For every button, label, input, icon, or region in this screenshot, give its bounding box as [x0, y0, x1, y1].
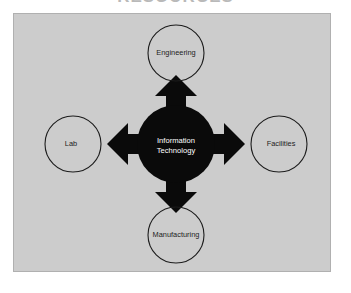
engineering-label: Engineering	[156, 48, 195, 57]
hub-and-spoke-diagram: Engineering Lab Facilities Manufacturing…	[14, 14, 331, 272]
node-manufacturing[interactable]: Manufacturing	[148, 207, 204, 263]
node-engineering[interactable]: Engineering	[148, 25, 204, 81]
page-title-sliver: RESOURCES	[0, 0, 351, 12]
lab-label: Lab	[65, 139, 77, 148]
node-information-technology-hub[interactable]: Information Technology	[137, 105, 215, 183]
page-title-text: RESOURCES	[0, 0, 351, 7]
manufacturing-label: Manufacturing	[153, 230, 200, 239]
hub-label-line-1: Information	[157, 136, 195, 145]
node-lab[interactable]: Lab	[45, 116, 101, 172]
diagram-panel: Engineering Lab Facilities Manufacturing…	[13, 13, 331, 272]
facilities-label: Facilities	[267, 139, 296, 148]
hub-label-line-2: Technology	[157, 146, 196, 155]
node-facilities[interactable]: Facilities	[251, 116, 307, 172]
